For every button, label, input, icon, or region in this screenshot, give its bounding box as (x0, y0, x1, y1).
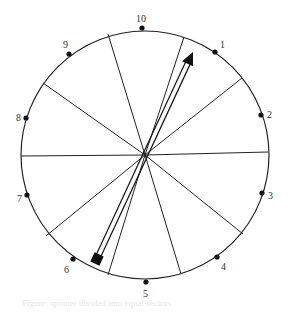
sector-line (43, 83, 145, 155)
point-marker (24, 192, 29, 197)
point-marker (143, 279, 148, 284)
sector-line (145, 155, 243, 234)
point-marker (214, 254, 219, 259)
sector-line (145, 155, 181, 274)
spinner-arrow (90, 52, 193, 266)
point-label: 7 (17, 193, 22, 204)
point-marker (139, 25, 144, 30)
point-label: 2 (267, 109, 272, 120)
point-marker (66, 51, 71, 56)
arrow-head-icon (182, 52, 193, 66)
sector-line (145, 78, 242, 155)
point-marker (212, 49, 217, 54)
sector-line (108, 34, 145, 155)
sector-line (145, 152, 268, 155)
sector-line (21, 155, 145, 156)
point-label: 8 (16, 112, 21, 123)
caption: Figure: spinner divided into equal secto… (22, 298, 171, 308)
sector-lines (21, 34, 268, 275)
spinner-diagram: 12345678910 (0, 0, 289, 313)
sector-line (46, 155, 145, 236)
point-marker (258, 112, 263, 117)
point-label: 1 (220, 39, 225, 50)
point-label: 10 (136, 13, 146, 24)
point-label: 6 (64, 264, 69, 275)
point-label: 3 (268, 190, 273, 201)
point-label: 4 (221, 261, 226, 272)
point-marker (70, 256, 75, 261)
point-label: 9 (63, 39, 68, 50)
point-marker (259, 190, 264, 195)
point-marker (23, 115, 28, 120)
